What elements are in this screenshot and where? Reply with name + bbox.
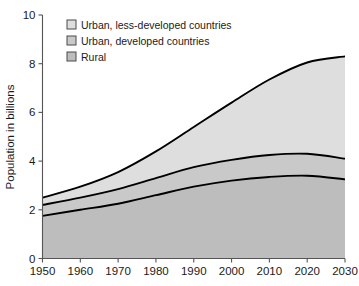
x-tick-label: 1960 (68, 265, 94, 277)
x-tick-label: 2020 (294, 265, 320, 277)
y-tick-label: 2 (29, 204, 35, 216)
x-tick-label: 2000 (219, 265, 245, 277)
x-tick-label: 1990 (181, 265, 207, 277)
x-tick-label: 1980 (143, 265, 169, 277)
x-tick-label: 2030 (332, 265, 358, 277)
y-axis-ticks: 0246810 (23, 9, 43, 265)
chart-legend: Urban, less-developed countriesUrban, de… (67, 19, 232, 63)
chart-container: 0246810 19501960197019801990200020102020… (0, 0, 359, 286)
legend-swatch (67, 20, 76, 29)
legend-label: Rural (81, 51, 106, 63)
y-tick-label: 6 (29, 106, 35, 118)
legend-swatch (67, 52, 76, 61)
x-tick-label: 2010 (257, 265, 283, 277)
y-tick-label: 0 (29, 253, 35, 265)
y-tick-label: 4 (29, 155, 36, 167)
population-area-chart: 0246810 19501960197019801990200020102020… (0, 0, 359, 286)
legend-label: Urban, developed countries (81, 35, 209, 47)
x-tick-label: 1970 (105, 265, 131, 277)
chart-areas (43, 56, 346, 258)
y-tick-label: 10 (23, 9, 36, 21)
y-axis-title: Population in billions (4, 84, 16, 189)
x-axis-ticks: 195019601970198019902000201020202030 (30, 259, 358, 277)
legend-label: Urban, less-developed countries (81, 19, 232, 31)
x-tick-label: 1950 (30, 265, 56, 277)
y-tick-label: 8 (29, 58, 35, 70)
legend-swatch (67, 36, 76, 45)
